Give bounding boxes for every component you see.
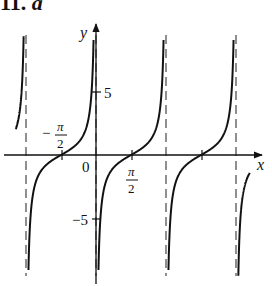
tick-label-half-pi: π 2 [126, 164, 138, 196]
svg-text:2: 2 [128, 181, 135, 196]
svg-text:−: − [42, 125, 50, 141]
x-axis-label: x [256, 156, 264, 173]
svg-text:π: π [128, 164, 135, 179]
tick-label-neg-half-pi: − π 2 [42, 119, 67, 151]
svg-text:π: π [57, 119, 64, 134]
tangent-graph: y x 0 5 −5 − π 2 π 2 [0, 0, 272, 286]
curve-branch-right-partial [238, 173, 249, 276]
curve-branch-left-partial [16, 36, 24, 129]
tick-label-5: 5 [104, 85, 112, 101]
origin-label: 0 [82, 159, 90, 175]
svg-text:2: 2 [57, 136, 64, 151]
figure: 11. a y x 0 5 −5 − π [0, 0, 272, 286]
problem-number: 11. a [0, 0, 43, 16]
y-axis-label: y [78, 24, 88, 42]
tick-label-neg5: −5 [72, 212, 88, 228]
tangent-curves [16, 36, 250, 275]
